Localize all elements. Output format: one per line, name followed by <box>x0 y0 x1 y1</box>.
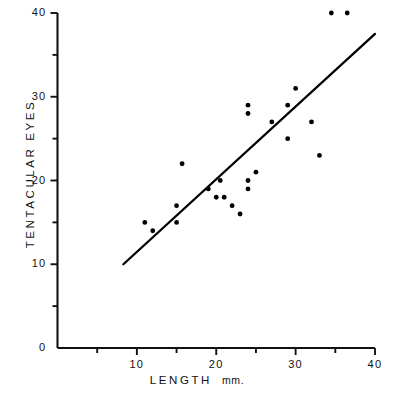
data-point <box>214 195 219 200</box>
x-tick-label: 40 <box>355 358 394 370</box>
data-point <box>174 220 179 225</box>
data-point <box>246 178 251 183</box>
data-point <box>246 111 251 116</box>
data-point <box>218 178 223 183</box>
x-tick-label: 20 <box>196 358 236 370</box>
x-axis-title-text: LENGTH <box>150 374 212 386</box>
data-point <box>345 11 350 16</box>
data-point <box>222 195 227 200</box>
data-point <box>206 186 211 191</box>
data-point <box>285 136 290 141</box>
regression-line <box>123 34 375 264</box>
data-point <box>285 103 290 108</box>
data-point <box>293 86 298 91</box>
data-point <box>142 220 147 225</box>
x-tick-label: 30 <box>276 358 316 370</box>
data-point <box>269 119 274 124</box>
data-points <box>142 11 349 234</box>
x-tick-label: 10 <box>117 358 157 370</box>
plot-canvas <box>0 0 394 395</box>
data-point <box>309 119 314 124</box>
data-point <box>246 103 251 108</box>
fit-line <box>123 34 375 264</box>
data-point <box>329 11 334 16</box>
y-axis-title: TENTACULAR EYES <box>24 74 36 274</box>
x-axis-title: LENGTHmm. <box>0 374 394 386</box>
data-point <box>174 203 179 208</box>
data-point <box>317 153 322 158</box>
y-tick-label: 0 <box>14 341 47 353</box>
y-tick-label: 40 <box>14 6 47 18</box>
data-point <box>238 212 243 217</box>
x-axis-unit: mm. <box>222 374 244 386</box>
data-point <box>150 228 155 233</box>
data-point <box>246 186 251 191</box>
data-point <box>230 203 235 208</box>
scatter-plot-figure: 01020304010203040 TENTACULAR EYES LENGTH… <box>0 0 394 395</box>
data-point <box>180 161 185 166</box>
data-point <box>254 170 259 175</box>
